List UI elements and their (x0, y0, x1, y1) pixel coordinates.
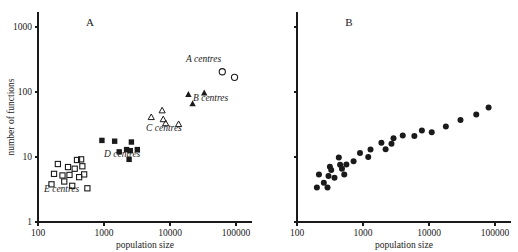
panel-letter: B (345, 16, 352, 28)
x-axis-tick-label: 1000 (354, 228, 373, 238)
data-point-filled-circle (368, 147, 374, 153)
data-point-open-square (80, 164, 85, 169)
data-point-filled-circle (378, 140, 384, 146)
y-axis-tick-label: 10 (23, 152, 33, 162)
data-point-open-square (85, 186, 90, 191)
x-axis-tick-label: 100000 (481, 228, 510, 238)
data-point-open-triangle (159, 107, 165, 113)
chart-panel-b: 100100010000100000population sizeB (259, 0, 518, 252)
data-point-filled-circle (357, 150, 363, 156)
axis-lines (297, 12, 511, 222)
data-point-open-triangle (148, 114, 154, 120)
data-point-filled-square (99, 138, 104, 143)
x-axis-tick-label: 10000 (158, 228, 182, 238)
data-point-filled-circle (429, 129, 435, 135)
data-point-filled-circle (473, 112, 479, 118)
data-point-filled-circle (325, 173, 331, 179)
data-point-filled-circle (383, 146, 389, 152)
data-point-filled-circle (351, 158, 357, 164)
data-point-open-square (77, 175, 82, 180)
data-point-open-square (67, 172, 72, 177)
data-point-open-square (82, 172, 87, 177)
x-axis-title: population size (375, 240, 433, 250)
data-point-filled-square (129, 139, 134, 144)
scatter-plot-b: 100100010000100000population sizeB (259, 0, 518, 252)
data-point-filled-circle (365, 154, 371, 160)
data-point-open-square (65, 164, 70, 169)
y-axis-tick-label: 100 (18, 87, 33, 97)
x-axis-tick-label: 100000 (222, 228, 251, 238)
y-axis-title: number of functions (6, 78, 16, 155)
data-point-filled-circle (343, 161, 349, 167)
series-annotation-d: D centres (103, 149, 141, 159)
data-point-filled-circle (339, 166, 345, 172)
data-point-filled-circle (341, 171, 347, 177)
data-point-filled-triangle (185, 91, 191, 97)
data-point-open-circle (231, 74, 237, 80)
scatter-plot-a: 1101001000100100010000100000population s… (0, 0, 259, 252)
y-axis-tick-label: 1 (27, 217, 32, 227)
series-annotation-a: A centres (185, 54, 221, 64)
data-point-open-circle (219, 69, 225, 75)
series-annotation-e: E centres (43, 184, 80, 194)
data-point-filled-circle (336, 155, 342, 161)
chart-panel-a: 1101001000100100010000100000population s… (0, 0, 259, 252)
x-axis-title: population size (116, 240, 174, 250)
data-point-filled-circle (332, 175, 338, 181)
data-point-open-square (55, 161, 60, 166)
data-point-filled-circle (314, 184, 320, 190)
x-axis-tick-label: 10000 (417, 228, 441, 238)
data-point-filled-circle (486, 104, 492, 110)
x-axis-tick-label: 1000 (95, 228, 114, 238)
y-axis-tick-label: 1000 (13, 22, 32, 32)
data-point-filled-circle (325, 184, 331, 190)
series-a-centres (219, 69, 237, 81)
panel-letter: A (86, 16, 94, 28)
data-point-filled-circle (316, 171, 322, 177)
data-point-open-square (51, 171, 56, 176)
axes-group: 100100010000100000 (290, 12, 511, 238)
data-point-open-square (60, 173, 65, 178)
data-point-filled-circle (419, 128, 425, 134)
series-all-centres (314, 104, 492, 190)
series-annotation-c: C centres (146, 123, 182, 133)
data-point-filled-circle (388, 141, 394, 147)
data-point-open-square (72, 166, 77, 171)
data-point-filled-circle (391, 135, 397, 141)
axes-group: 1101001000100100010000100000 (13, 12, 252, 238)
x-axis-tick-label: 100 (290, 228, 305, 238)
figure-container: 1101001000100100010000100000population s… (0, 0, 518, 252)
data-point-filled-circle (328, 167, 334, 173)
series-annotation-b: B centres (193, 93, 229, 103)
x-axis-tick-label: 100 (31, 228, 46, 238)
data-point-filled-circle (443, 123, 449, 129)
data-point-filled-circle (400, 132, 406, 138)
data-point-filled-circle (411, 133, 417, 139)
data-point-filled-circle (457, 117, 463, 123)
data-point-filled-square (112, 139, 117, 144)
